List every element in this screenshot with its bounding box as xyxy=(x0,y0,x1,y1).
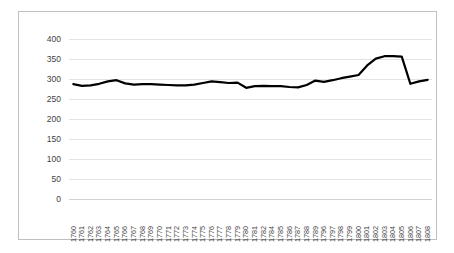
x-axis-tick-label: 1807 xyxy=(415,226,422,242)
x-axis-tick-label: 1777 xyxy=(216,226,223,242)
x-axis-tick-label: 1764 xyxy=(104,226,111,242)
y-axis-labels: 400350300250200150100500 xyxy=(31,12,61,241)
x-axis-tick-label: 1774 xyxy=(191,226,198,242)
y-axis-tick-label: 400 xyxy=(31,35,61,43)
x-axis-tick-label: 1808 xyxy=(424,226,431,242)
y-axis-tick-label: 200 xyxy=(31,115,61,123)
y-axis-tick-label: 300 xyxy=(31,75,61,83)
x-axis-tick-label: 1785 xyxy=(277,226,284,242)
x-axis-tick-label: 1763 xyxy=(95,226,102,242)
x-axis-labels: 1760176117621763176417651766176717681769… xyxy=(69,196,432,242)
x-axis-tick-label: 1782 xyxy=(260,226,267,242)
x-axis-tick-label: 1796 xyxy=(320,226,327,242)
chart-plot-wrapper: 400350300250200150100500 176017611762176… xyxy=(19,12,438,241)
x-axis-tick-label: 1780 xyxy=(242,226,249,242)
x-axis-tick-label: 1804 xyxy=(389,226,396,242)
x-axis-tick-label: 1776 xyxy=(208,226,215,242)
x-axis-tick-label: 1803 xyxy=(381,226,388,242)
x-axis-tick-label: 1806 xyxy=(407,226,414,242)
y-axis-tick-label: 50 xyxy=(31,175,61,183)
x-axis-tick-label: 1786 xyxy=(286,226,293,242)
x-axis-tick-label: 1775 xyxy=(199,226,206,242)
x-axis-tick-label: 1778 xyxy=(225,226,232,242)
x-axis-tick-label: 1784 xyxy=(268,226,275,242)
y-axis-tick-label: 350 xyxy=(31,55,61,63)
x-axis-tick-label: 1760 xyxy=(70,226,77,242)
x-axis-tick-label: 1768 xyxy=(139,226,146,242)
y-axis-tick-label: 250 xyxy=(31,95,61,103)
x-axis-tick-label: 1761 xyxy=(78,226,85,242)
x-axis-tick-label: 1772 xyxy=(173,226,180,242)
y-axis-tick-label: 150 xyxy=(31,135,61,143)
y-axis-tick-label: 0 xyxy=(31,195,61,203)
x-axis-tick-label: 1798 xyxy=(337,226,344,242)
x-axis-tick-label: 1771 xyxy=(165,226,172,242)
x-axis-tick-label: 1767 xyxy=(130,226,137,242)
x-axis-tick-label: 1765 xyxy=(113,226,120,242)
x-axis-tick-label: 1797 xyxy=(329,226,336,242)
x-axis-tick-label: 1762 xyxy=(87,226,94,242)
x-axis-tick-label: 1800 xyxy=(355,226,362,242)
x-axis-tick-label: 1773 xyxy=(182,226,189,242)
chart-frame: 400350300250200150100500 176017611762176… xyxy=(18,11,437,240)
x-axis-tick-label: 1788 xyxy=(303,226,310,242)
x-axis-tick-label: 1789 xyxy=(312,226,319,242)
x-axis-tick-label: 1799 xyxy=(346,226,353,242)
x-axis-tick-label: 1769 xyxy=(147,226,154,242)
x-axis-tick-label: 1787 xyxy=(294,226,301,242)
x-axis-tick-label: 1805 xyxy=(398,226,405,242)
x-axis-tick-label: 1766 xyxy=(121,226,128,242)
series-polyline xyxy=(73,56,427,88)
x-axis-tick-label: 1781 xyxy=(251,226,258,242)
x-axis-tick-label: 1801 xyxy=(363,226,370,242)
x-axis-tick-label: 1802 xyxy=(372,226,379,242)
y-axis-tick-label: 100 xyxy=(31,155,61,163)
x-axis-tick-label: 1770 xyxy=(156,226,163,242)
x-axis-tick-label: 1779 xyxy=(234,226,241,242)
